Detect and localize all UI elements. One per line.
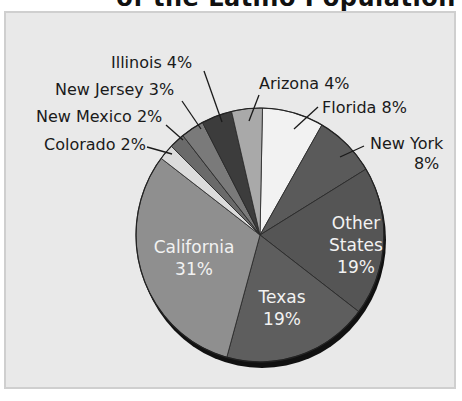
label-texas-pct: 19%: [247, 308, 317, 330]
label-california: California 31%: [145, 236, 243, 280]
label-florida: Florida 8%: [322, 98, 407, 118]
label-texas-name: Texas: [247, 286, 317, 308]
pie-chart: [0, 0, 462, 401]
label-other-pct: 19%: [313, 256, 399, 278]
label-other-line1: Other: [313, 212, 399, 234]
label-new-york-name: New York: [370, 134, 443, 154]
label-texas: Texas 19%: [247, 286, 317, 330]
label-other-states: Other States 19%: [313, 212, 399, 278]
label-california-name: California: [145, 236, 243, 258]
label-new-jersey: New Jersey 3%: [55, 80, 174, 100]
label-other-line2: States: [313, 234, 399, 256]
label-california-pct: 31%: [145, 258, 243, 280]
label-new-york: New York 8%: [370, 134, 443, 174]
label-colorado: Colorado 2%: [44, 135, 146, 155]
label-new-mexico: New Mexico 2%: [36, 107, 162, 127]
label-arizona: Arizona 4%: [259, 74, 350, 94]
label-new-york-pct: 8%: [370, 154, 443, 174]
label-illinois: Illinois 4%: [111, 53, 192, 73]
